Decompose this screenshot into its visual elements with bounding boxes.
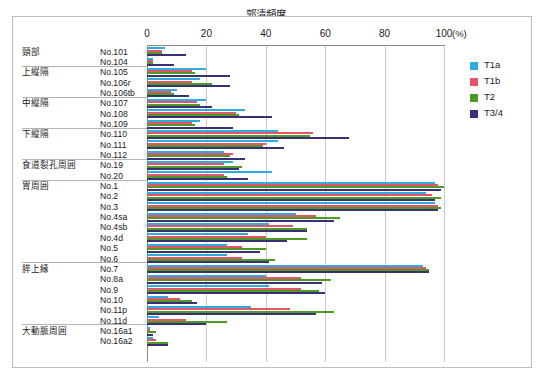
category-label: 胃周囲 [22, 181, 49, 191]
bar-T34-No.11d [147, 323, 206, 325]
category-label: 大動脈周囲 [22, 326, 67, 336]
legend-swatch-icon [470, 78, 478, 86]
bar-T34-No.10 [147, 302, 197, 304]
x-tick-label-40: 40 [260, 28, 271, 39]
node-label: No.101 [100, 47, 128, 57]
node-label: No.11p [100, 305, 127, 315]
bar-T34-No.104 [147, 64, 174, 66]
legend-label: T3/4 [484, 107, 503, 118]
node-label: No.105 [100, 67, 128, 77]
bar-T34-No.2 [147, 199, 435, 201]
gridline-100 [444, 46, 445, 362]
group-separator [22, 159, 147, 160]
bar-T34-No.106tb [147, 95, 189, 97]
legend-label: T1a [484, 59, 500, 70]
bar-T34-No.106r [147, 85, 230, 87]
bar-T34-No.107 [147, 106, 212, 108]
node-label: No.4sa [100, 212, 127, 222]
node-label: No.7 [100, 264, 118, 274]
bar-T34-No.1 [147, 189, 441, 191]
group-separator [22, 128, 147, 129]
node-label: No.8a [100, 274, 123, 284]
legend-swatch-icon [470, 62, 478, 70]
legend-label: T1b [484, 75, 500, 86]
group-separator [22, 324, 147, 325]
bar-T34-No.9 [147, 292, 325, 294]
legend-swatch-icon [470, 94, 478, 102]
category-label: 中縦隔 [22, 98, 49, 108]
bar-T34-No.4sa [147, 220, 334, 222]
bar-T34-No.11p [147, 313, 316, 315]
bar-T34-No.6 [147, 261, 269, 263]
category-label: 頸部 [22, 47, 40, 57]
node-label: No.9 [100, 285, 118, 295]
x-axis-unit-label: (%) [452, 28, 467, 39]
node-label: No.3 [100, 202, 118, 212]
category-label: 膵上縁 [22, 264, 49, 274]
group-separator [22, 97, 147, 98]
bar-T34-No.112 [147, 158, 245, 160]
group-separator [22, 180, 147, 181]
category-label: 上縦隔 [22, 67, 49, 77]
node-label: No.110 [100, 129, 127, 139]
category-label: 食道裂孔周囲 [22, 160, 76, 170]
bar-T34-No.110 [147, 137, 349, 139]
bar-T34-No.101 [147, 54, 186, 56]
bar-T34-No.111 [147, 147, 284, 149]
bar-T34-No.16a1 [147, 334, 153, 336]
node-label: No.108 [100, 109, 128, 119]
bar-T34-No.3 [147, 209, 438, 211]
bar-T34-No.5 [147, 251, 260, 253]
x-tick-label-100: 100 [436, 28, 453, 39]
bar-T34-No.19 [147, 168, 239, 170]
x-tick-label-0: 0 [144, 28, 150, 39]
bar-T34-No.20 [147, 178, 248, 180]
bar-T34-No.105 [147, 75, 230, 77]
x-tick-label-80: 80 [379, 28, 390, 39]
node-label: No.2 [100, 191, 118, 201]
node-label: No.4sb [100, 222, 127, 232]
node-label: No.4d [100, 233, 123, 243]
bar-T34-No.109 [147, 127, 233, 129]
bar-T34-No.108 [147, 116, 272, 118]
node-label: No.5 [100, 243, 118, 253]
node-label: No.16a2 [100, 336, 133, 346]
legend-swatch-icon [470, 110, 478, 118]
node-label: No.106r [100, 78, 131, 88]
group-separator [22, 262, 147, 263]
node-label: No.107 [100, 98, 128, 108]
bar-T34-No.4sb [147, 230, 307, 232]
category-label: 下縦隔 [22, 129, 49, 139]
x-tick-label-20: 20 [201, 28, 212, 39]
node-label: No.16a1 [100, 326, 133, 336]
node-label: No.1 [100, 181, 118, 191]
chart-page: 郭清頻度 020406080100 (%) 頸部上縦隔中縦隔下縦隔食道裂孔周囲胃… [0, 0, 546, 382]
node-label: No.10 [100, 295, 123, 305]
node-label: No.111 [100, 140, 126, 150]
group-separator [22, 66, 147, 67]
bar-T34-No.7 [147, 271, 429, 273]
node-label: No.19 [100, 160, 123, 170]
bar-T34-No.16a2 [147, 344, 168, 346]
bar-T34-No.8a [147, 282, 322, 284]
bar-T34-No.4d [147, 240, 287, 242]
legend-label: T2 [484, 91, 495, 102]
plot-area [147, 46, 444, 362]
x-tick-label-60: 60 [320, 28, 331, 39]
